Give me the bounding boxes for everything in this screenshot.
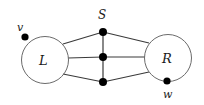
separator-vertex-top [99,28,107,36]
separator-set-label: S [98,9,106,21]
separator-vertex-middle [99,53,107,61]
vertex-v-dot [21,33,28,40]
edge-left-to-s-top [63,32,103,44]
vertex-v-label: v [17,22,23,33]
left-set-label: L [39,54,48,67]
vertex-w-label: w [163,89,172,100]
separator-vertex-bottom [99,78,107,86]
edge-s-top-to-right [103,32,149,43]
vertex-w-dot [163,77,170,84]
right-set-label: R [162,52,172,65]
graph-separator-diagram: L R S v w [0,0,204,105]
edge-left-to-s-bottom [63,74,103,82]
edge-left-to-s-middle [68,57,103,58]
edge-s-bottom-to-right [103,72,149,82]
